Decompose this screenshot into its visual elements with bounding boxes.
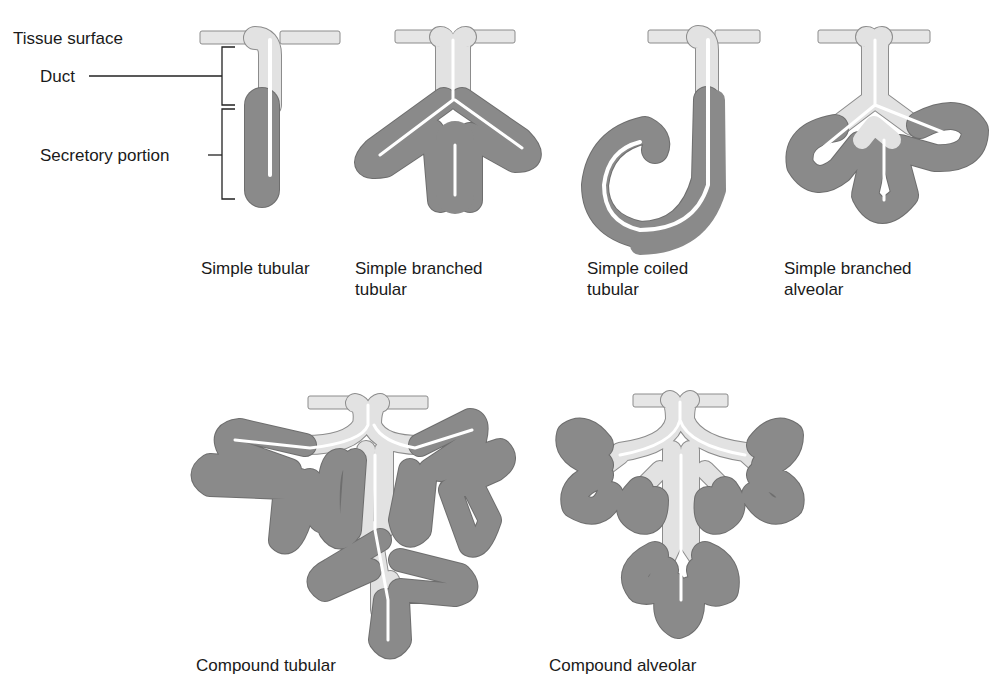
gland-compound-alveolar — [569, 394, 790, 625]
label-secretory-portion: Secretory portion — [40, 145, 169, 166]
gland-diagram — [0, 0, 1007, 698]
caption-simple-tubular: Simple tubular — [201, 258, 310, 279]
label-tissue-surface: Tissue surface — [13, 28, 123, 49]
annotation-brackets — [89, 47, 235, 199]
gland-simple-branched-tubular — [367, 30, 529, 200]
gland-simple-tubular — [200, 31, 340, 190]
gland-compound-tubular — [203, 396, 505, 648]
caption-simple-coiled-tubular: Simple coiled tubular — [587, 258, 688, 300]
gland-simple-coiled-tubular — [595, 30, 760, 245]
label-duct: Duct — [40, 66, 75, 87]
caption-compound-alveolar: Compound alveolar — [549, 655, 696, 676]
tissue-surface-right — [280, 31, 340, 44]
caption-simple-branched-alveolar: Simple branched alveolar — [784, 258, 912, 300]
caption-simple-branched-tubular: Simple branched tubular — [355, 258, 483, 300]
caption-compound-tubular: Compound tubular — [196, 655, 336, 676]
gland-simple-branched-alveolar — [799, 30, 975, 210]
